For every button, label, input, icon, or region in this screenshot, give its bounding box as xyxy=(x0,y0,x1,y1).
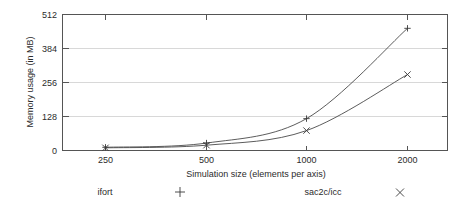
series-sac2c-icc-markers xyxy=(102,71,410,151)
y-tick-label-256: 256 xyxy=(42,78,57,88)
legend-label-sac2c-icc: sac2c/icc xyxy=(304,187,342,197)
series-ifort-line xyxy=(106,28,408,147)
chart-legend: ifort sac2c/icc xyxy=(97,187,404,197)
x-tick-label-500: 500 xyxy=(199,155,214,165)
data-point-sac2c-icc-3 xyxy=(404,71,410,77)
x-axis-title: Simulation size (elements per axis) xyxy=(186,169,326,179)
series-sac2c-icc xyxy=(102,71,410,151)
x-tick-labels: 250 500 1000 2000 xyxy=(98,155,418,165)
series-ifort xyxy=(102,25,410,150)
y-tick-label-512: 512 xyxy=(42,10,57,20)
x-tick-label-2000: 2000 xyxy=(397,155,417,165)
x-tick-label-250: 250 xyxy=(98,155,113,165)
legend-marker-ifort xyxy=(175,187,185,197)
series-sac2c-icc-line xyxy=(106,75,408,148)
x-tick-label-1000: 1000 xyxy=(296,155,316,165)
legend-marker-sac2c-icc xyxy=(396,189,404,197)
y-axis-title: Memory usage (in MB) xyxy=(25,36,35,127)
grid-lines xyxy=(63,49,448,117)
series-ifort-markers xyxy=(102,25,410,150)
y-tick-label-0: 0 xyxy=(52,146,57,156)
y-tick-labels: 512 384 256 128 0 xyxy=(42,10,57,156)
chart-canvas: 512 384 256 128 0 250 500 1000 2000 Simu… xyxy=(0,0,470,208)
memory-usage-chart: 512 384 256 128 0 250 500 1000 2000 Simu… xyxy=(0,0,470,208)
y-tick-label-128: 128 xyxy=(42,112,57,122)
y-tick-label-384: 384 xyxy=(42,44,57,54)
legend-label-ifort: ifort xyxy=(97,187,113,197)
data-point-sac2c-icc-2 xyxy=(303,127,309,133)
